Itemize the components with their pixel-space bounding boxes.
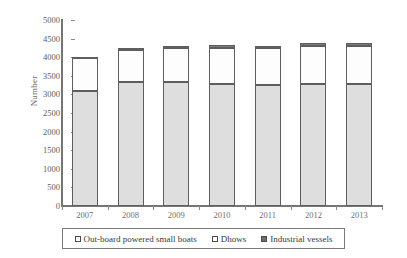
legend-swatch-dhows-icon [212, 236, 218, 242]
bar-segment-outboard[interactable] [72, 91, 98, 206]
bar-segment-outboard[interactable] [118, 82, 144, 206]
bar-segment-outboard[interactable] [255, 85, 281, 206]
bar-group[interactable] [346, 20, 372, 206]
bar-group[interactable] [255, 20, 281, 206]
bar-segment-outboard[interactable] [346, 84, 372, 206]
bar-segment-dhows[interactable] [163, 48, 189, 82]
x-axis-tick-mark [153, 206, 154, 210]
y-axis-tick-label: 3500 [20, 71, 60, 81]
bar-segment-outboard[interactable] [163, 82, 189, 206]
bar-group[interactable] [118, 20, 144, 206]
bar-segment-dhows[interactable] [72, 58, 98, 90]
bar-segment-industrial[interactable] [118, 48, 144, 50]
legend-swatch-industrial-icon [261, 236, 267, 242]
x-axis-tick-mark [62, 206, 63, 210]
x-axis-tick-mark [336, 206, 337, 210]
y-axis-tick-label: 4000 [20, 52, 60, 62]
bar-segment-dhows[interactable] [209, 48, 235, 84]
x-axis-tick-label: 2008 [122, 210, 139, 220]
x-axis-tick-mark [199, 206, 200, 210]
x-axis-tick-mark [382, 206, 383, 210]
bar-segment-dhows[interactable] [346, 46, 372, 84]
x-axis-tick-label: 2007 [76, 210, 93, 220]
y-axis-tick-label: 2500 [20, 108, 60, 118]
bar-segment-industrial[interactable] [255, 46, 281, 49]
bar-segment-dhows[interactable] [255, 48, 281, 85]
bar-group[interactable] [209, 20, 235, 206]
x-axis-tick-label: 2010 [214, 210, 231, 220]
bar-segment-outboard[interactable] [300, 84, 326, 206]
x-axis-tick-label: 2012 [305, 210, 322, 220]
legend-label: Out-board powered small boats [84, 234, 197, 244]
bar-group[interactable] [300, 20, 326, 206]
x-axis-tick-mark [291, 206, 292, 210]
x-axis-tick-mark [108, 206, 109, 210]
bar-group[interactable] [163, 20, 189, 206]
y-axis-tick-label: 3000 [20, 89, 60, 99]
bar-group[interactable] [72, 20, 98, 206]
x-axis-tick-mark [245, 206, 246, 210]
x-axis-tick-label: 2013 [351, 210, 368, 220]
y-axis-tick-container: 0500100015002000250030003500400045005000 [14, 0, 60, 258]
x-axis-tick-label: 2011 [259, 210, 276, 220]
legend-item-outboard[interactable]: Out-board powered small boats [75, 234, 197, 244]
y-axis-tick-label: 2000 [20, 127, 60, 137]
y-axis-tick-label: 1500 [20, 145, 60, 155]
bar-segment-industrial[interactable] [300, 43, 326, 46]
legend-item-dhows[interactable]: Dhows [212, 234, 247, 244]
y-axis-tick-label: 1000 [20, 164, 60, 174]
bar-segment-industrial[interactable] [163, 46, 189, 49]
bar-segment-outboard[interactable] [209, 84, 235, 206]
chart-legend: Out-board powered small boatsDhowsIndust… [62, 228, 345, 249]
legend-label: Industrial vessels [270, 234, 332, 244]
y-axis-tick-label: 0 [20, 201, 60, 211]
y-axis-tick-label: 500 [20, 182, 60, 192]
y-axis-tick-label: 5000 [20, 15, 60, 25]
bar-segment-dhows[interactable] [300, 46, 326, 84]
legend-label: Dhows [221, 234, 247, 244]
bar-segment-dhows[interactable] [118, 50, 144, 83]
bar-segment-industrial[interactable] [346, 43, 372, 46]
bar-segment-industrial[interactable] [209, 45, 235, 48]
legend-item-industrial[interactable]: Industrial vessels [261, 234, 332, 244]
x-axis-tick-label: 2009 [168, 210, 185, 220]
stacked-bar-chart: Number 050010001500200025003000350040004… [0, 0, 407, 258]
y-axis-tick-label: 4500 [20, 34, 60, 44]
legend-swatch-outboard-icon [75, 236, 81, 242]
bar-segment-industrial[interactable] [72, 57, 98, 59]
